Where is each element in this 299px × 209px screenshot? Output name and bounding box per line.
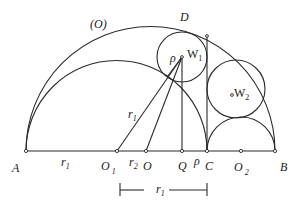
arbelos-diagram: (O) D A r1 O1 r2 O Q ρ C O2 B W1 ρ W2 r1… xyxy=(0,0,299,209)
point-A xyxy=(24,149,27,152)
label-O1: O1 xyxy=(101,159,116,176)
label-C: C xyxy=(205,159,214,173)
label-W1: W1 xyxy=(187,47,202,63)
small-semicircle-CB xyxy=(207,117,275,151)
point-B xyxy=(273,149,276,152)
label-O: O xyxy=(143,159,152,173)
point-O xyxy=(144,149,147,152)
point-C xyxy=(205,149,208,152)
label-circle-O: (O) xyxy=(90,17,107,31)
label-rho-W1: ρ xyxy=(169,51,176,65)
point-W1 xyxy=(181,56,184,59)
label-W2: W2 xyxy=(234,86,249,102)
label-r1-slant: r1 xyxy=(128,107,137,123)
label-A: A xyxy=(11,161,20,175)
point-O2 xyxy=(239,149,242,152)
point-O1 xyxy=(115,149,118,152)
label-Q: Q xyxy=(178,159,187,173)
label-B: B xyxy=(280,160,288,174)
label-r1-bracket: r1 xyxy=(156,182,165,198)
segment-O1-W1 xyxy=(117,57,182,151)
point-Q xyxy=(180,149,183,152)
label-r2: r2 xyxy=(129,155,138,171)
segment-O-W1 xyxy=(146,57,182,151)
point-W2 xyxy=(231,94,234,97)
label-r1-base: r1 xyxy=(61,155,70,171)
label-D: D xyxy=(179,10,189,24)
label-O2: O2 xyxy=(234,160,249,177)
label-rho-QC: ρ xyxy=(193,154,200,168)
point-T xyxy=(206,35,209,38)
